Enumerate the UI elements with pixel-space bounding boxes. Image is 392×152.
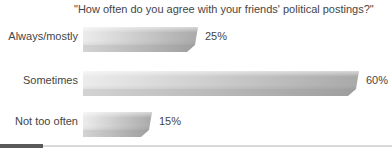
bar-always-mostly	[83, 27, 198, 52]
bar-row-always-mostly: Always/mostly 25%	[0, 27, 392, 52]
bar-not-too-often	[83, 112, 152, 137]
value-label-sometimes: 60%	[366, 71, 388, 89]
bar-bevel	[83, 130, 152, 137]
bar-bevel	[83, 45, 198, 52]
category-label-always-mostly: Always/mostly	[0, 27, 78, 45]
bar-row-sometimes: Sometimes 60%	[0, 71, 392, 96]
value-label-not-too-often: 15%	[159, 112, 181, 130]
bar-face	[83, 112, 152, 130]
bottom-divider-accent	[0, 144, 43, 148]
bar-bevel	[83, 89, 359, 96]
bar-face	[83, 71, 359, 89]
bar-chart: "How often do you agree with your friend…	[0, 0, 392, 152]
bar-row-not-too-often: Not too often 15%	[0, 112, 392, 137]
bar-sometimes	[83, 71, 359, 96]
category-label-not-too-often: Not too often	[0, 112, 78, 130]
chart-title: "How often do you agree with your friend…	[74, 3, 374, 16]
value-label-always-mostly: 25%	[205, 27, 227, 45]
category-label-sometimes: Sometimes	[0, 71, 78, 89]
bar-face	[83, 27, 198, 45]
bottom-divider	[0, 145, 392, 147]
